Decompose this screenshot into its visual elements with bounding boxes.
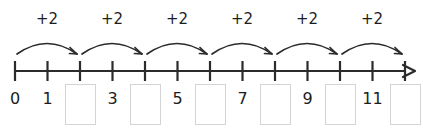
axis-group: [15, 65, 415, 77]
jump-label: +2: [92, 11, 132, 28]
axis-number-label: 11: [358, 89, 388, 109]
number-line-worksheet: +2+2+2+2+2+2 01357911: [0, 0, 423, 128]
jump-label: +2: [352, 11, 392, 28]
answer-box[interactable]: [260, 84, 291, 125]
axis-number-label: 7: [228, 89, 258, 109]
jump-label: +2: [222, 11, 262, 28]
jump-arc: [82, 44, 142, 55]
jump-arc: [147, 44, 207, 55]
axis-number-label: 1: [33, 89, 63, 109]
jump-arc: [17, 44, 77, 55]
jump-arc: [212, 44, 272, 55]
answer-box[interactable]: [195, 84, 226, 125]
axis-number-label: 5: [163, 89, 193, 109]
answer-box[interactable]: [390, 84, 421, 125]
jump-label: +2: [27, 11, 67, 28]
axis-number-label: 0: [0, 89, 30, 109]
jump-arc: [342, 44, 402, 55]
axis-number-label: 3: [98, 89, 128, 109]
answer-box[interactable]: [65, 84, 96, 125]
axis-number-label: 9: [293, 89, 323, 109]
jump-arc: [277, 44, 337, 55]
answer-box[interactable]: [325, 84, 356, 125]
answer-box[interactable]: [130, 84, 161, 125]
jump-label: +2: [157, 11, 197, 28]
jump-arc-group: [17, 44, 402, 55]
jump-label: +2: [287, 11, 327, 28]
